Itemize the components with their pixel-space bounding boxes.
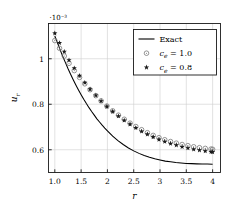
y-tick-label: 0.6 [32, 146, 44, 155]
chart-canvas: 1.01.522.533.54 0.60.81 ·10⁻³ r ur Exact… [0, 0, 237, 213]
circle-dot-icon-center [146, 53, 147, 54]
x-tick-label: 1.0 [49, 177, 61, 186]
y-axis-exponent-label: ·10⁻³ [50, 14, 68, 22]
x-axis-label: r [132, 191, 137, 201]
data-point-center [59, 48, 60, 49]
chart-legend: Exactce = 1.0ce = 0.8 [134, 30, 217, 76]
x-tick-label: 4 [210, 177, 215, 186]
data-point-center [74, 70, 75, 71]
data-point-center [54, 40, 55, 41]
x-tick-label: 2 [105, 177, 110, 186]
data-point-center [79, 77, 80, 78]
data-point-center [68, 63, 69, 64]
x-tick-label: 3.5 [180, 177, 192, 186]
data-point-center [64, 55, 65, 56]
x-tick-label: 2.5 [128, 177, 140, 186]
legend-entry-label: Exact [160, 35, 184, 44]
x-tick-label: 1.5 [75, 177, 87, 186]
y-tick-label: 1 [39, 55, 44, 64]
x-tick-label: 3 [158, 177, 163, 186]
figure-container: 1.01.522.533.54 0.60.81 ·10⁻³ r ur Exact… [0, 0, 237, 213]
y-tick-label: 0.8 [32, 100, 44, 109]
